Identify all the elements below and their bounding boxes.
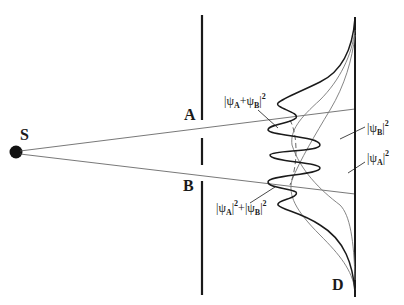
diagram-canvas: S A B D |ψA+ψB|2 |ψA| bbox=[0, 0, 404, 305]
interference-label: |ψA+ψB|2 bbox=[224, 92, 266, 110]
slit-a-label: A bbox=[184, 106, 196, 123]
double-slit-diagram: S A B D |ψA+ψB|2 |ψA| bbox=[0, 0, 404, 305]
psi-a-label: |ψA|2 bbox=[367, 149, 389, 167]
source-dot bbox=[10, 146, 23, 159]
slit-b-label: B bbox=[183, 177, 194, 194]
sum-label: |ψA|2+|ψB|2 bbox=[216, 199, 267, 217]
screen-label: D bbox=[332, 276, 344, 293]
psi-a-squared-curve bbox=[292, 30, 355, 280]
interference-curve bbox=[268, 18, 355, 292]
leader-psi-a bbox=[348, 162, 365, 173]
leader-psi-b bbox=[340, 127, 365, 139]
source-label: S bbox=[20, 126, 29, 143]
psi-b-label: |ψB|2 bbox=[367, 119, 389, 137]
